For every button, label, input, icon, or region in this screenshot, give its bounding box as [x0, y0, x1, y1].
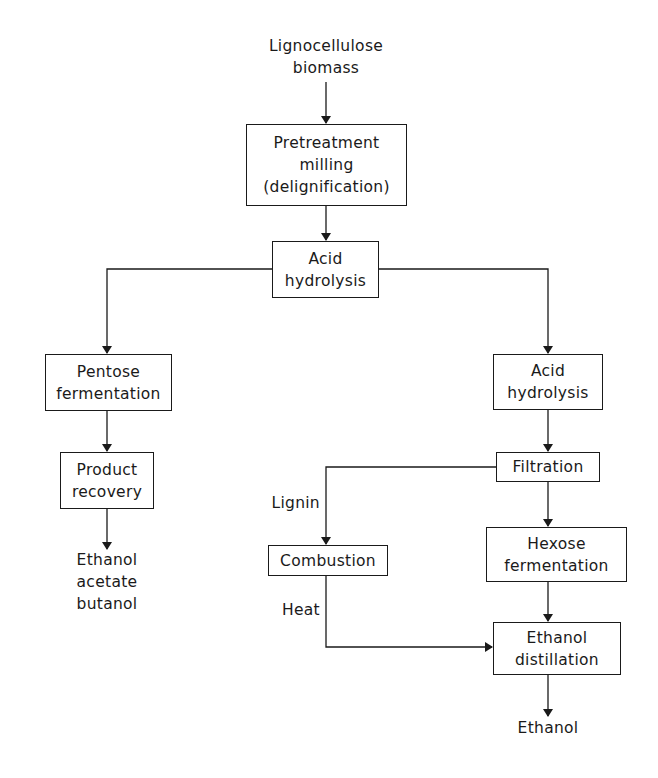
- output-left-line2: acetate: [57, 571, 157, 593]
- node-hexose-line1: Hexose: [527, 533, 586, 555]
- node-pretreatment-line2: milling: [299, 154, 353, 176]
- output-right: Ethanol: [498, 717, 598, 739]
- node-acid-hydrolysis-2: Acid hydrolysis: [493, 354, 603, 410]
- arrow-filtration-to-combustion: [326, 467, 496, 544]
- input-label: Lignocellulose biomass: [246, 35, 406, 79]
- arrow-acid-hydrolysis-to-acid-hydrolysis-2: [379, 269, 548, 353]
- node-pretreatment-line1: Pretreatment: [274, 132, 380, 154]
- node-filtration-line1: Filtration: [512, 456, 583, 478]
- node-pentose-line1: Pentose: [77, 361, 140, 383]
- arrow-acid-hydrolysis-to-pentose: [107, 269, 272, 353]
- node-acid-hydrolysis-2-line1: Acid: [531, 360, 565, 382]
- node-pretreatment-line3: (delignification): [263, 176, 390, 198]
- node-product-recovery: Product recovery: [60, 452, 154, 509]
- node-ethanol-distillation: Ethanol distillation: [493, 622, 621, 675]
- node-product-recovery-line2: recovery: [72, 481, 142, 503]
- node-combustion-line1: Combustion: [280, 550, 376, 572]
- node-distillation-line2: distillation: [515, 649, 599, 671]
- arrow-combustion-to-distillation: [326, 576, 492, 647]
- node-acid-hydrolysis-1-line2: hydrolysis: [285, 270, 366, 292]
- output-left: Ethanol acetate butanol: [57, 549, 157, 615]
- node-pentose-line2: fermentation: [56, 383, 160, 405]
- node-combustion: Combustion: [268, 545, 388, 576]
- node-distillation-line1: Ethanol: [527, 627, 588, 649]
- node-acid-hydrolysis-2-line2: hydrolysis: [507, 382, 588, 404]
- output-right-line1: Ethanol: [498, 717, 598, 739]
- input-line2: biomass: [246, 57, 406, 79]
- node-acid-hydrolysis-1-line1: Acid: [308, 248, 342, 270]
- node-acid-hydrolysis-1: Acid hydrolysis: [272, 241, 379, 298]
- output-left-line1: Ethanol: [57, 549, 157, 571]
- node-pretreatment: Pretreatment milling (delignification): [246, 124, 407, 206]
- node-hexose-fermentation: Hexose fermentation: [486, 527, 627, 582]
- node-product-recovery-line1: Product: [77, 459, 138, 481]
- node-pentose-fermentation: Pentose fermentation: [45, 354, 172, 411]
- edge-label-heat: Heat: [265, 599, 320, 621]
- output-left-line3: butanol: [57, 593, 157, 615]
- node-hexose-line2: fermentation: [504, 555, 608, 577]
- input-line1: Lignocellulose: [246, 35, 406, 57]
- edge-label-lignin: Lignin: [255, 492, 320, 514]
- node-filtration: Filtration: [496, 452, 600, 482]
